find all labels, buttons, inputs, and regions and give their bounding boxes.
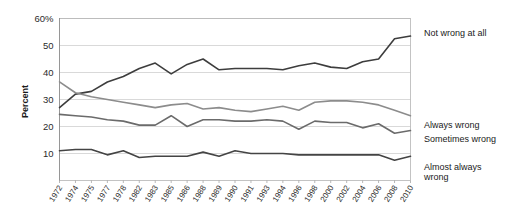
y-tick-label: 20 — [43, 121, 54, 132]
y-tick-label: 30 — [43, 94, 54, 105]
y-tick-label: 50 — [43, 40, 54, 51]
line-chart: 102030405060% Percent 197219741975197719… — [0, 0, 528, 223]
y-tick-label: 10 — [43, 148, 54, 159]
legend-label-sometimes-wrong: Sometimes wrong — [424, 134, 496, 144]
legend-label-always-wrong: Always wrong — [424, 120, 480, 130]
legend-label-almost-always-wrong: Almost always — [424, 162, 482, 172]
y-tick-label: 40 — [43, 67, 54, 78]
legend-label-almost-always-wrong-line2: wrong — [423, 172, 449, 182]
y-axis-title-text: Percent — [20, 85, 30, 118]
y-tick-label: 60% — [34, 13, 54, 24]
chart-container: 102030405060% Percent 197219741975197719… — [0, 0, 528, 223]
y-axis-title: Percent — [20, 85, 30, 118]
legend-label-not-wrong-at-all: Not wrong at all — [424, 28, 487, 38]
